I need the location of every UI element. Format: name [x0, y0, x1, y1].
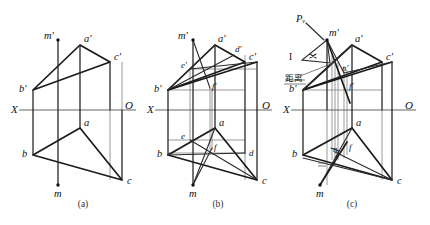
- panel-c-label-a-prime: a': [355, 33, 363, 44]
- panel-c-caption: (c): [347, 199, 358, 210]
- panel-b-m-dot: [191, 183, 194, 186]
- panel-a-label-b-prime: b': [19, 83, 27, 94]
- panel-b-caption: (b): [212, 199, 223, 210]
- panel-c-label-n: n: [333, 144, 338, 154]
- panel-b-labels: a' b' c' d' e' f' a b c d e f m' m: [154, 30, 267, 199]
- panel-c-label-m-prime: m': [329, 27, 340, 38]
- panel-c: X O: [282, 13, 416, 210]
- panel-a-label-a-prime: a': [84, 33, 92, 44]
- descriptive-geometry-figure: X O a' b' c' a b: [0, 0, 430, 225]
- panel-c-label-f-prime: f': [349, 81, 355, 91]
- panel-c-label-n-prime: n': [342, 63, 350, 73]
- panel-b-label-b: b: [157, 148, 162, 159]
- panel-a-label-c: c: [127, 175, 132, 186]
- panel-a-label-c-prime: c': [114, 51, 122, 62]
- panel-c-label-c-prime: c': [386, 51, 394, 62]
- panel-c-axis-label-x: X: [282, 103, 291, 115]
- panel-a-axis-label-x: X: [10, 103, 19, 115]
- panel-b-top-triangle: [168, 110, 257, 180]
- panel-b-label-b-prime: b': [154, 83, 162, 94]
- panel-b-axis: X O: [146, 99, 272, 115]
- panel-a-label-m: m: [54, 188, 62, 199]
- panel-a-label-a: a: [84, 117, 89, 128]
- panel-c-perpendicular-top: [303, 128, 392, 185]
- panel-a-labels: a' b' c' a b c m' m: [19, 30, 132, 199]
- panel-b-label-c: c: [262, 175, 267, 186]
- panel-a-m-prime-dot: [56, 38, 59, 41]
- panel-a: X O a' b' c' a b: [10, 30, 136, 210]
- panel-b-label-d-prime: d': [235, 44, 243, 54]
- panel-a-axis-label-o: O: [125, 99, 133, 111]
- panel-a-label-m-prime: m': [44, 30, 55, 41]
- panel-a-point-m-locus: [56, 38, 59, 186]
- panel-a-axis: X O: [10, 99, 136, 115]
- panel-a-top-triangle: [33, 110, 122, 180]
- panel-c-m-dot: [318, 183, 321, 186]
- panel-c-label-f: f: [349, 142, 353, 152]
- panel-b-axis-label-o: O: [262, 99, 270, 111]
- panel-c-label-distance: 距离: [285, 73, 303, 83]
- panel-c-label-m: m: [316, 188, 324, 199]
- panel-c-label-roman-one: I: [289, 52, 292, 62]
- panel-b-label-d: d: [249, 148, 254, 158]
- panel-c-label-b: b: [292, 148, 297, 159]
- panel-a-front-triangle: [33, 45, 110, 110]
- panel-b-point-m-locus: [191, 38, 194, 186]
- panel-a-m-dot: [56, 183, 59, 186]
- panel-b-label-a: a: [219, 117, 224, 128]
- figure-root: X O a' b' c' a b: [0, 0, 430, 225]
- panel-b-label-f: f: [214, 142, 218, 152]
- panel-c-label-a: a: [356, 117, 361, 128]
- panel-c-m-prime-dot: [325, 38, 328, 41]
- panel-b-label-c-prime: c': [249, 51, 257, 62]
- panel-b-label-a-prime: a': [218, 33, 226, 44]
- panel-c-label-c: c: [397, 175, 402, 186]
- panel-c-axis-label-o: O: [405, 99, 413, 111]
- panel-b-m-prime-dot: [191, 38, 194, 41]
- panel-b-label-m-prime: m': [178, 30, 189, 41]
- panel-c-label-b-prime: b': [289, 83, 297, 94]
- panel-c-label-pv: Pᵥ: [295, 13, 305, 24]
- panel-b-label-e-prime: e': [181, 60, 188, 70]
- panel-a-caption: (a): [78, 199, 89, 210]
- panel-b: X O: [146, 30, 272, 210]
- panel-b-label-e: e: [181, 131, 185, 141]
- panel-c-annotations: Pᵥ I 距离: [284, 13, 306, 84]
- panel-c-labels: a' b' c' n' f' m' a b c n f m: [289, 27, 402, 199]
- panel-b-label-f-prime: f': [212, 81, 218, 91]
- panel-b-label-m: m: [189, 188, 197, 199]
- panel-a-label-b: b: [22, 148, 27, 159]
- panel-b-axis-label-x: X: [146, 103, 155, 115]
